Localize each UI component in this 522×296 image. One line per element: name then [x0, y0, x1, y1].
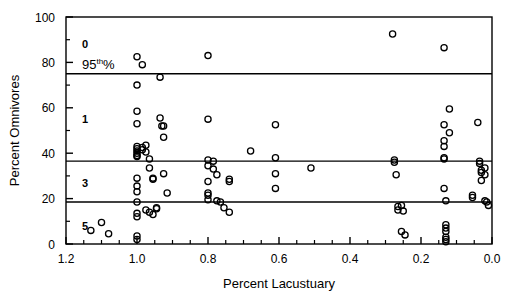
- scatter-plot-figure: 0204060801001.21.00.80.60.40.20.0013595t…: [0, 0, 522, 296]
- y-tick-label: 60: [42, 101, 56, 115]
- x-tick-label: 0.4: [342, 252, 359, 266]
- data-point: [205, 52, 211, 58]
- data-point: [161, 134, 167, 140]
- plot-frame: [66, 17, 492, 244]
- x-axis-title: Percent Lacustuary: [223, 276, 336, 291]
- data-point: [134, 54, 140, 60]
- x-tick-label: 1.0: [129, 252, 146, 266]
- y-tick-label: 80: [42, 56, 56, 70]
- percentile-superscript: th: [96, 57, 103, 66]
- data-point: [248, 148, 254, 154]
- x-tick-label: 0.6: [271, 252, 288, 266]
- data-point: [146, 165, 152, 171]
- data-point: [226, 209, 232, 215]
- data-point: [98, 219, 104, 225]
- data-point: [443, 198, 449, 204]
- data-point: [478, 177, 484, 183]
- data-point: [164, 190, 170, 196]
- data-point: [272, 155, 278, 161]
- percentile-percent-sign: %: [103, 57, 115, 72]
- y-tick-label: 100: [35, 11, 55, 25]
- y-tick-label: 40: [42, 147, 56, 161]
- data-point: [446, 106, 452, 112]
- data-point: [134, 82, 140, 88]
- data-point: [441, 122, 447, 128]
- data-point: [88, 227, 94, 233]
- data-point: [210, 166, 216, 172]
- data-point: [272, 171, 278, 177]
- data-point: [475, 119, 481, 125]
- data-point: [157, 115, 163, 121]
- x-tick-label: 0.8: [200, 252, 217, 266]
- data-point: [214, 172, 220, 178]
- data-point: [106, 231, 112, 237]
- data-point: [221, 205, 227, 211]
- data-point: [308, 165, 314, 171]
- data-point: [390, 31, 396, 37]
- data-point: [205, 116, 211, 122]
- percentile-number: 95: [82, 57, 96, 72]
- data-point: [157, 74, 163, 80]
- x-tick-label: 1.2: [58, 252, 75, 266]
- data-point: [393, 172, 399, 178]
- band-label-0: 0: [82, 38, 88, 50]
- data-point: [134, 108, 140, 114]
- data-point: [272, 185, 278, 191]
- data-point: [139, 62, 145, 68]
- y-tick-label: 0: [48, 238, 55, 252]
- data-point: [441, 185, 447, 191]
- data-point: [161, 171, 167, 177]
- y-axis-title: Percent Omnivores: [7, 74, 22, 186]
- x-tick-label: 0.2: [413, 252, 430, 266]
- x-tick-label: 0.0: [484, 252, 501, 266]
- data-point: [205, 178, 211, 184]
- data-point: [134, 175, 140, 181]
- data-point: [272, 122, 278, 128]
- band-label-1: 1: [82, 113, 88, 125]
- band-label-3: 3: [82, 177, 88, 189]
- data-point: [134, 121, 140, 127]
- data-point: [446, 130, 452, 136]
- percent-omnivores-vs-percent-lacustuary-chart: 0204060801001.21.00.80.60.40.20.0013595t…: [0, 0, 522, 296]
- percentile-annotation: 95th%: [82, 57, 115, 72]
- data-point: [441, 45, 447, 51]
- y-tick-label: 20: [42, 192, 56, 206]
